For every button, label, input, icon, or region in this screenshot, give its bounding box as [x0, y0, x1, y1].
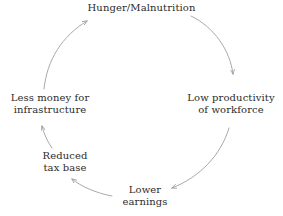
node-earnings-line-2: earnings: [112, 196, 178, 208]
node-productivity-line-1: Low productivity: [183, 92, 279, 104]
node-productivity-line-2: of workforce: [183, 104, 279, 116]
node-taxbase-line-2: tax base: [28, 162, 102, 174]
arrow-infrastructure-to-hunger: [44, 21, 87, 89]
node-infrastructure-line-2: infrastructure: [2, 104, 98, 116]
arrow-productivity-to-earnings: [172, 128, 229, 188]
node-hunger-line-1: Hunger/Malnutrition: [0, 2, 283, 14]
node-less-money-infrastructure: Less money for infrastructure: [2, 92, 98, 115]
arrow-earnings-to-taxbase: [72, 179, 112, 196]
cycle-diagram: Hunger/Malnutrition Low productivity of …: [0, 0, 283, 216]
node-low-productivity: Low productivity of workforce: [183, 92, 279, 115]
arrow-hunger-to-productivity: [191, 16, 233, 74]
node-reduced-tax-base: Reduced tax base: [28, 150, 102, 173]
node-infrastructure-line-1: Less money for: [2, 92, 98, 104]
node-earnings-line-1: Lower: [112, 184, 178, 196]
node-lower-earnings: Lower earnings: [112, 184, 178, 207]
node-hunger-malnutrition: Hunger/Malnutrition: [0, 2, 283, 14]
node-taxbase-line-1: Reduced: [28, 150, 102, 162]
arrow-taxbase-to-infrastructure: [42, 126, 52, 148]
